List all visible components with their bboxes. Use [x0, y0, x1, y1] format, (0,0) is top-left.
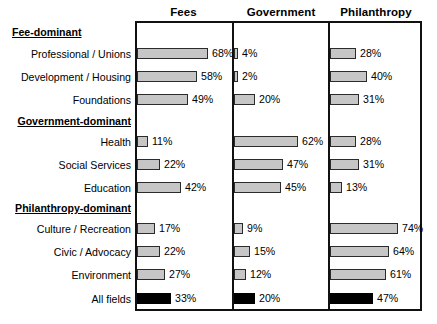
bar-value-government-foundations: 20% [259, 93, 280, 106]
bar-value-philanthropy-environment: 61% [390, 268, 411, 281]
bar-value-fees-professional-unions: 68% [212, 47, 233, 60]
row-label-foundations: Foundations [0, 93, 131, 107]
bar-value-government-education: 45% [285, 181, 306, 194]
bar-value-fees-all-fields: 33% [175, 292, 196, 305]
bar-value-government-social-services: 47% [287, 158, 308, 171]
bar-fees-health [137, 136, 148, 147]
bar-value-philanthropy-professional-unions: 28% [360, 47, 381, 60]
bar-philanthropy-health [330, 136, 356, 147]
bar-government-social-services [234, 159, 283, 170]
bar-philanthropy-professional-unions [330, 48, 356, 59]
bar-philanthropy-foundations [330, 94, 359, 105]
bar-government-health [234, 136, 298, 147]
column-header-fees: Fees [135, 5, 232, 20]
bar-value-fees-civic-advocacy: 22% [164, 245, 185, 258]
row-label-education: Education [0, 181, 131, 195]
bar-fees-culture-recreation [137, 223, 155, 234]
bar-value-government-all-fields: 20% [259, 292, 280, 305]
bar-government-culture-recreation [234, 223, 243, 234]
bar-value-philanthropy-social-services: 31% [363, 158, 384, 171]
bar-value-fees-foundations: 49% [192, 93, 213, 106]
bar-government-education [234, 182, 281, 193]
bar-philanthropy-education [330, 182, 342, 193]
bar-fees-social-services [137, 159, 160, 170]
grouped-bar-chart: Fees Government Philanthropy Fee-dominan… [0, 0, 437, 324]
bar-philanthropy-development-housing [330, 71, 367, 82]
bar-value-philanthropy-education: 13% [346, 181, 367, 194]
bar-value-fees-environment: 27% [169, 268, 190, 281]
group-heading-government-dominant: Government-dominant [0, 114, 131, 128]
row-label-civic-advocacy: Civic / Advocacy [0, 245, 131, 259]
bar-value-philanthropy-foundations: 31% [363, 93, 384, 106]
group-heading-philanthropy-dominant: Philanthropy-dominant [0, 201, 131, 215]
bar-philanthropy-culture-recreation [330, 223, 398, 234]
bar-government-civic-advocacy [234, 246, 250, 257]
bar-fees-civic-advocacy [137, 246, 160, 257]
bar-value-government-civic-advocacy: 15% [254, 245, 275, 258]
group-heading-fee-dominant: Fee-dominant [0, 25, 131, 39]
row-label-social-services: Social Services [0, 158, 131, 172]
bar-government-environment [234, 269, 246, 280]
bar-value-philanthropy-development-housing: 40% [371, 70, 392, 83]
bar-value-government-environment: 12% [250, 268, 271, 281]
column-header-philanthropy: Philanthropy [330, 5, 422, 20]
bar-fees-development-housing [137, 71, 197, 82]
bar-fees-all-fields [137, 293, 171, 304]
bar-value-government-development-housing: 2% [242, 70, 257, 83]
bar-value-philanthropy-culture-recreation: 74% [402, 222, 423, 235]
bar-value-philanthropy-health: 28% [360, 135, 381, 148]
bar-value-philanthropy-all-fields: 47% [377, 292, 398, 305]
bar-value-philanthropy-civic-advocacy: 64% [393, 245, 414, 258]
row-label-culture-recreation: Culture / Recreation [0, 222, 131, 236]
bar-fees-education [137, 182, 181, 193]
bar-value-fees-development-housing: 58% [201, 70, 222, 83]
row-label-health: Health [0, 135, 131, 149]
bar-value-government-culture-recreation: 9% [247, 222, 262, 235]
bar-philanthropy-environment [330, 269, 386, 280]
bar-fees-environment [137, 269, 165, 280]
bar-value-government-professional-unions: 4% [242, 47, 257, 60]
bar-philanthropy-social-services [330, 159, 359, 170]
bar-value-fees-health: 11% [152, 135, 172, 148]
row-label-all-fields: All fields [0, 292, 131, 306]
bar-government-foundations [234, 94, 255, 105]
bar-philanthropy-civic-advocacy [330, 246, 389, 257]
bar-fees-professional-unions [137, 48, 208, 59]
row-label-professional-unions: Professional / Unions [0, 47, 131, 61]
bar-government-all-fields [234, 293, 255, 304]
bar-government-development-housing [234, 71, 238, 82]
bar-value-government-health: 62% [302, 135, 323, 148]
row-label-development-housing: Development / Housing [0, 70, 131, 84]
row-label-environment: Environment [0, 268, 131, 282]
bar-government-professional-unions [234, 48, 238, 59]
bar-philanthropy-all-fields [330, 293, 373, 304]
bar-value-fees-education: 42% [185, 181, 206, 194]
bar-value-fees-social-services: 22% [164, 158, 185, 171]
column-header-government: Government [234, 5, 328, 20]
bar-fees-foundations [137, 94, 188, 105]
bar-value-fees-culture-recreation: 17% [159, 222, 180, 235]
